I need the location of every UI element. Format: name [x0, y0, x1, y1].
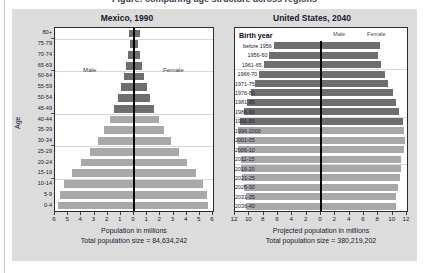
x-tick-label: 1 [114, 215, 126, 222]
bar-female [321, 99, 396, 106]
x-tick-label: 12 [400, 215, 412, 222]
usa-male-label: Male [333, 31, 345, 37]
bar-female [134, 83, 147, 91]
x-tick-label: 2 [328, 215, 340, 222]
age-label: 15-19 [38, 169, 52, 175]
age-label: 0-4 [44, 202, 52, 208]
bar-male [269, 52, 321, 59]
x-tick-label: 3 [167, 215, 179, 222]
figure-panel: Mexico, 1990 United States, 2040 Age 80+… [12, 9, 417, 261]
x-tick-label: 0 [127, 215, 139, 222]
birth-year-label: 1971-75 [235, 81, 253, 87]
bar-female [321, 71, 385, 78]
bar-male [60, 191, 134, 199]
bar-male [274, 42, 321, 49]
birth-year-label: 1981-85 [235, 99, 245, 105]
usa-x-axis-label: Projected population in millions [217, 227, 425, 234]
age-label: 10-14 [38, 180, 52, 186]
age-label: 5-9 [44, 191, 52, 197]
birth-year-label: 2011-15 [235, 156, 239, 162]
bar-female [321, 127, 404, 134]
x-tick-label: 6 [48, 215, 60, 222]
bar-female [321, 137, 405, 144]
bar-female [321, 146, 404, 153]
usa-total-population: Total population size = 380,219,202 [217, 237, 425, 244]
bar-female [134, 137, 171, 145]
usa-birth-year-heading: Birth year [239, 31, 273, 40]
bar-female [134, 105, 154, 113]
bar-male [81, 159, 134, 167]
x-tick-label: 12 [228, 215, 240, 222]
bar-female [321, 80, 388, 87]
bar-female [134, 73, 144, 81]
bar-male [264, 61, 321, 68]
bar-female [134, 126, 164, 134]
bar-female [134, 30, 140, 38]
mexico-male-label: Male [83, 66, 96, 73]
bar-male [244, 108, 321, 115]
x-tick-label: 2 [300, 215, 312, 222]
age-label: 60-64 [38, 72, 52, 78]
bar-female [134, 169, 196, 177]
bar-male [244, 184, 321, 191]
bar-male [121, 83, 134, 91]
mexico-y-axis-label: Age [14, 117, 21, 129]
x-tick-label: 0 [314, 215, 326, 222]
cropped-caption: Figure: comparing age structure across r… [8, 0, 421, 7]
mexico-total-population: Total population size = 84,634,242 [34, 237, 234, 244]
bar-female [134, 202, 208, 210]
x-tick-label: 1 [140, 215, 152, 222]
x-tick-label: 4 [285, 215, 297, 222]
age-label: 70-74 [38, 51, 52, 57]
bar-female [321, 193, 396, 200]
usa-female-label: Female [367, 31, 386, 37]
birth-year-label: 1956-60 [235, 52, 267, 58]
age-label: 65-69 [38, 62, 52, 68]
x-tick-label: 5 [193, 215, 205, 222]
age-label: 80+ [43, 29, 53, 35]
age-label: 50-54 [38, 94, 52, 100]
x-tick-label: 10 [242, 215, 254, 222]
bar-female [321, 174, 400, 181]
x-tick-label: 8 [257, 215, 269, 222]
x-tick-label: 3 [88, 215, 100, 222]
usa-x-axis: 12108642024681012 [234, 212, 408, 226]
bar-female [321, 184, 398, 191]
bar-male [98, 137, 134, 145]
bar-male [255, 80, 321, 87]
mexico-female-label: Female [163, 66, 184, 73]
bar-female [321, 165, 401, 172]
bar-female [321, 203, 396, 210]
mexico-x-axis-label: Population in millions [34, 227, 234, 234]
age-label: 30-34 [38, 137, 52, 143]
x-tick-label: 4 [180, 215, 192, 222]
figure-page: Figure: comparing age structure across r… [0, 0, 429, 273]
age-label: 35-39 [38, 126, 52, 132]
birth-year-label: 2036-40 [235, 203, 244, 209]
bar-male [110, 116, 134, 124]
birth-year-label: 2006-10 [235, 147, 236, 153]
mexico-center-axis [133, 28, 134, 211]
bar-female [321, 108, 399, 115]
x-tick-label: 4 [74, 215, 86, 222]
x-tick-label: 5 [61, 215, 73, 222]
x-tick-label: 6 [206, 215, 218, 222]
x-tick-label: 6 [357, 215, 369, 222]
birth-year-label: 2026-30 [235, 184, 242, 190]
bar-female [321, 89, 393, 96]
bar-male [118, 94, 134, 102]
age-label: 40-44 [38, 116, 52, 122]
x-tick-label: 2 [153, 215, 165, 222]
bar-female [134, 116, 159, 124]
birth-year-label: 2021-25 [235, 175, 240, 181]
x-tick-label: 6 [271, 215, 283, 222]
bar-male [72, 169, 134, 177]
usa-chart-title: United States, 2040 [217, 13, 407, 23]
bar-male [58, 202, 134, 210]
birth-year-label: 1991-95 [235, 118, 238, 124]
bar-male [247, 99, 321, 106]
bar-female [134, 51, 140, 59]
bar-male [90, 148, 134, 156]
cropped-caption-text: Figure: comparing age structure across r… [8, 0, 421, 4]
x-tick-label: 2 [101, 215, 113, 222]
